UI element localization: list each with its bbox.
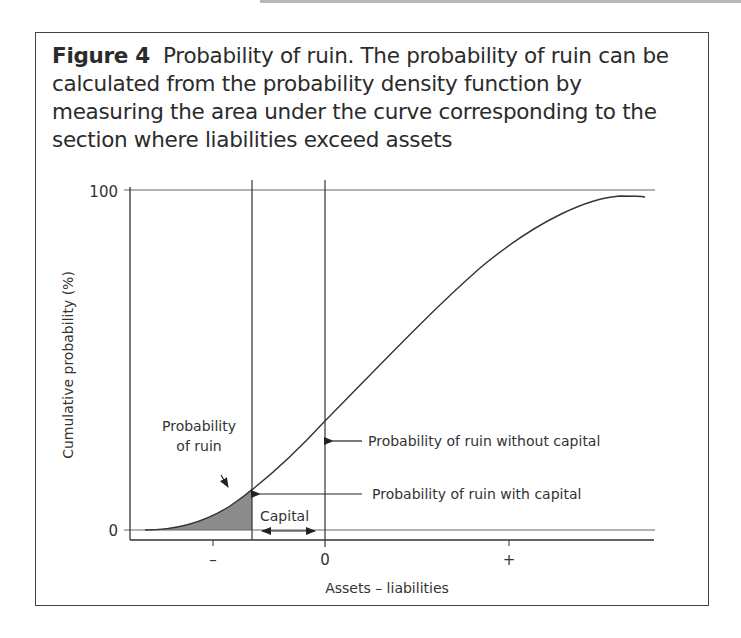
chart: 100 0 – 0 + Assets – liabilities Cumulat… [0,0,741,638]
ruin-pointer-arrow [221,475,228,487]
cdf-curve [145,196,645,530]
x-tick-minus-label: – [209,551,217,569]
y-axis-title: Cumulative probability (%) [60,271,76,459]
with-capital-label: Probability of ruin with capital [372,486,581,502]
x-tick-zero-label: 0 [320,551,330,569]
capital-label: Capital [260,508,309,524]
ruin-shaded-area [145,488,252,530]
x-tick-plus-label: + [503,551,516,569]
without-capital-label: Probability of ruin without capital [368,433,600,449]
y-tick-0: 0 [108,522,118,540]
x-axis-title: Assets – liabilities [325,580,449,596]
ruin-label-line1: Probability [162,418,236,434]
ruin-label-line2: of ruin [176,438,221,454]
y-tick-100: 100 [89,183,118,201]
